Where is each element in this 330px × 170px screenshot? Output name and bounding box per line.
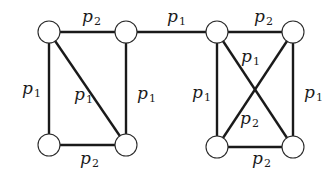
edge-label-base: p [167,6,178,26]
node-d [115,134,137,156]
node-a [38,21,60,43]
graph-diagram: p2p1p2p1p1p1p2p1p1p2p1p2 [0,0,330,170]
edge-label-base: p [74,84,85,104]
edge-label-a-b: p2 [82,6,101,28]
edge-label-base: p [254,6,265,26]
edge-label-subscript: 1 [316,91,323,104]
edge-label-subscript: 1 [204,91,211,104]
edge-label-subscript: 2 [264,157,271,170]
edge-label-e-h: p1 [241,46,260,68]
edge-label-c-d: p2 [80,148,99,170]
edge-label-e-g: p1 [192,82,211,104]
edge-label-base: p [137,83,148,103]
edge-label-a-d: p1 [74,84,93,106]
edge-label-base: p [82,6,93,26]
edge-label-subscript: 1 [34,87,41,100]
edge-label-f-h: p1 [304,82,323,104]
edge-label-a-c: p1 [22,78,41,100]
node-e [206,21,228,43]
edge-label-subscript: 1 [253,55,260,68]
edge-label-g-h: p2 [252,148,271,170]
edge-label-subscript: 2 [94,15,101,28]
node-g [206,136,228,158]
edge-label-subscript: 2 [92,157,99,170]
edge-label-base: p [240,108,251,128]
edge-label-e-f: p2 [254,6,273,28]
node-b [115,21,137,43]
edge-label-base: p [192,82,203,102]
node-f [282,21,304,43]
node-c [38,134,60,156]
edge-label-b-d: p1 [137,83,156,105]
edge-label-base: p [22,78,33,98]
edge-label-base: p [252,148,263,168]
edge-label-base: p [241,46,252,66]
edge-label-subscript: 1 [86,93,93,106]
edge-label-subscript: 1 [149,92,156,105]
edge-label-subscript: 2 [252,117,259,130]
edge-label-f-g: p2 [240,108,259,130]
node-h [282,136,304,158]
edge-a-d [49,32,126,145]
edge-label-subscript: 1 [179,15,186,28]
edge-label-b-e: p1 [167,6,186,28]
edge-label-base: p [80,148,91,168]
edge-label-subscript: 2 [266,15,273,28]
edge-label-base: p [304,82,315,102]
